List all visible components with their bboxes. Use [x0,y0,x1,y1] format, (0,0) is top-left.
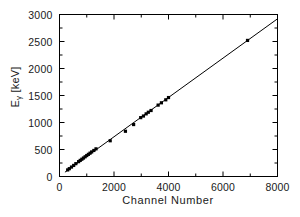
data-point-marker [246,39,249,42]
data-point-marker [147,111,150,114]
data-point-marker [74,162,77,165]
chart-figure: Eγ [keV] Channel Number 0500100015002000… [0,0,300,217]
data-point-marker [124,130,127,133]
data-point-marker [160,101,163,104]
data-point-marker [132,123,135,126]
data-point-marker [139,116,142,119]
data-point-marker [167,96,170,99]
data-point-marker [164,98,167,101]
data-point-marker [142,114,145,117]
plot-area [0,0,300,217]
data-point-marker [109,139,112,142]
data-point-marker [157,104,160,107]
data-point-marker [149,109,152,112]
data-point-marker [94,147,97,150]
